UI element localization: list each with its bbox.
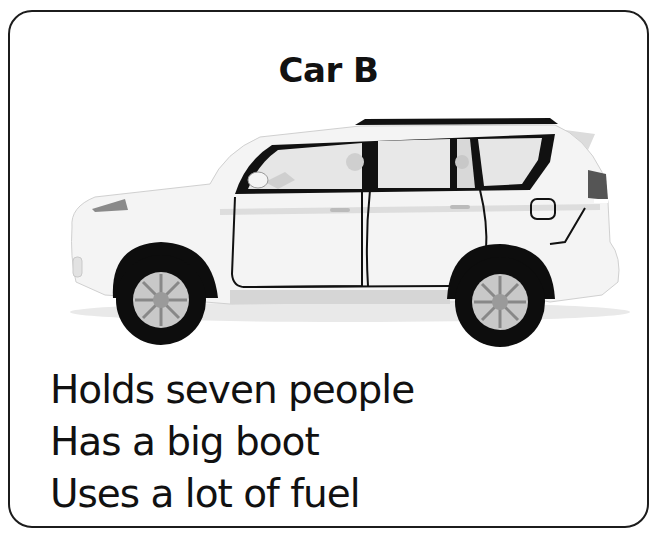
feature-item: Uses a lot of fuel [50,468,414,520]
suv-car-icon [60,107,640,352]
front-wheel [116,255,206,345]
rear-wheel [455,257,545,347]
feature-list: Holds seven people Has a big boot Uses a… [50,364,414,520]
feature-item: Has a big boot [50,416,414,468]
card-title: Car B [10,50,647,90]
feature-item: Holds seven people [50,364,414,416]
car-card: Car B [8,10,649,528]
